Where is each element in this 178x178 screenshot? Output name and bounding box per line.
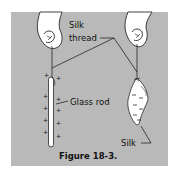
right-hand-icon [125, 12, 152, 47]
silk-label: Silk [121, 138, 136, 148]
svg-text:+: + [43, 92, 48, 99]
svg-text:+: + [56, 106, 61, 113]
svg-text:+: + [43, 128, 48, 135]
silk-cloth [128, 78, 148, 125]
silk-thread-label-line1: Silk [69, 20, 84, 30]
svg-text:+: + [56, 74, 61, 81]
svg-text:+: + [56, 119, 61, 126]
silk-leader [141, 126, 151, 143]
svg-text:+: + [44, 71, 49, 78]
svg-text:+: + [56, 95, 61, 102]
silk-thread-label-line2: thread [69, 33, 97, 43]
glass-rod-label: Glass rod [70, 97, 110, 107]
svg-text:+: + [43, 104, 48, 111]
svg-text:+: + [43, 116, 48, 123]
static-electricity-diagram: + + + + + + + + + + Silk thread Glass ro… [0, 0, 178, 178]
left-hand-icon [37, 12, 62, 49]
svg-text:+: + [56, 132, 61, 139]
glass-rod [49, 77, 55, 147]
silk-thread-leader [52, 38, 137, 72]
figure-caption: Figure 18-3. [59, 151, 117, 161]
